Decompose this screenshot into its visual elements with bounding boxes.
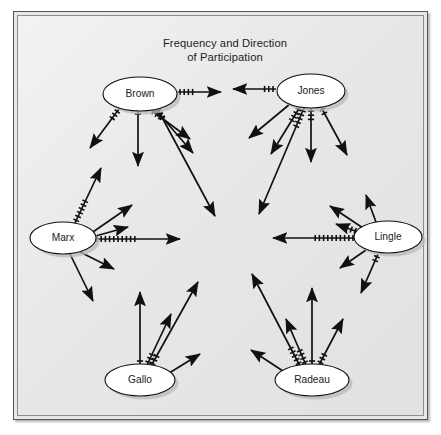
node-marx[interactable]: Marx (30, 222, 100, 258)
edge-radeau-31 (318, 319, 343, 365)
edge-lingle-21 (273, 235, 356, 241)
node-label-marx: Marx (52, 232, 75, 243)
edges-layer (70, 86, 380, 375)
edge-brown-5 (156, 108, 215, 216)
node-label-lingle: Lingle (374, 231, 402, 242)
frequency-tick (299, 353, 305, 355)
frequency-tick (302, 361, 308, 363)
edge-line (340, 250, 366, 268)
edge-line (70, 254, 93, 301)
edge-marx-17 (70, 254, 93, 301)
edge-marx-15 (94, 236, 180, 242)
edge-line (75, 168, 101, 223)
figure-root: Frequency and Direction of Participation… (0, 0, 441, 435)
edge-line (321, 107, 347, 155)
node-label-gallo: Gallo (128, 374, 152, 385)
edge-line (90, 205, 132, 234)
edge-line (151, 282, 198, 366)
edge-lingle-22 (340, 250, 366, 268)
frequency-tick (298, 113, 304, 115)
diagram-title-line1: Frequency and Direction (163, 37, 287, 49)
frequency-tick (297, 117, 303, 119)
edge-brown-0 (177, 89, 221, 95)
frequency-tick (293, 125, 299, 127)
edge-lingle-18 (366, 195, 376, 222)
edge-jones-10 (308, 108, 314, 162)
frequency-tick (295, 121, 301, 123)
edge-brown-2 (135, 111, 141, 166)
edge-radeau-30 (309, 288, 315, 364)
node-label-radeau: Radeau (294, 374, 330, 385)
edge-line (271, 107, 300, 154)
nodes-layer: BrownJonesMarxLingleGalloRadeau (30, 74, 426, 400)
edge-jones-8 (271, 107, 301, 154)
frequency-tick (374, 256, 380, 258)
edge-line (251, 350, 286, 373)
edge-jones-11 (320, 107, 347, 155)
node-brown[interactable]: Brown (103, 77, 181, 115)
node-label-brown: Brown (126, 88, 155, 99)
edge-brown-1 (90, 109, 120, 148)
edge-marx-12 (73, 168, 101, 223)
node-label-jones: Jones (297, 85, 324, 96)
edge-lingle-23 (361, 254, 380, 293)
sociogram-canvas: Frequency and Direction of Participation… (18, 16, 433, 425)
frequency-tick (300, 357, 306, 359)
edge-gallo-24 (137, 292, 143, 364)
diagram-panel: Frequency and Direction of Participation… (13, 11, 428, 420)
edge-jones-6 (233, 86, 276, 92)
diagram-panel-inner: Frequency and Direction of Participation… (17, 15, 424, 416)
frequency-tick (372, 259, 378, 261)
edge-line (157, 108, 215, 216)
node-gallo[interactable]: Gallo (105, 364, 179, 400)
frequency-tick (297, 349, 303, 351)
edge-line (361, 254, 378, 293)
edge-line (366, 195, 376, 222)
frequency-tick (346, 225, 348, 231)
diagram-title-line2: of Participation (187, 51, 263, 63)
edge-gallo-26 (150, 282, 198, 366)
edge-radeau-32 (251, 350, 286, 373)
edge-marx-13 (90, 205, 132, 234)
edge-lingle-19 (330, 206, 363, 228)
node-radeau[interactable]: Radeau (275, 364, 353, 400)
edge-radeau-28 (252, 274, 301, 366)
frequency-tick (350, 227, 352, 233)
edge-line (330, 206, 363, 228)
